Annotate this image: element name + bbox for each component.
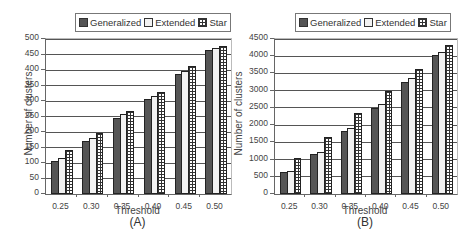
y-tick-label: 500: [238, 170, 268, 180]
y-tick-mark: [270, 141, 274, 142]
gridline: [275, 176, 457, 177]
x-tick-label: 0.25: [45, 201, 75, 211]
legend-item-star: Star: [198, 17, 226, 28]
gridline: [275, 56, 457, 57]
legend-item-generalized: Generalized: [79, 17, 141, 28]
y-tick-label: 200: [9, 125, 39, 135]
y-tick-label: 0: [238, 187, 268, 197]
gridline: [275, 90, 457, 91]
gridline: [46, 132, 231, 133]
chart-sublabel: (B): [274, 215, 456, 229]
legend-swatch-icon: [418, 18, 427, 27]
x-tick-mark: [199, 194, 200, 197]
legend-label: Generalized: [310, 17, 361, 28]
y-tick-label: 400: [9, 63, 39, 73]
chart-sublabel: (A): [45, 215, 230, 229]
legend-swatch-icon: [364, 18, 373, 27]
y-tick-label: 1000: [238, 153, 268, 163]
y-tick-label: 2000: [238, 118, 268, 128]
plot-area: [45, 38, 232, 195]
gridline: [46, 178, 231, 179]
y-tick-mark: [41, 193, 45, 194]
y-tick-mark: [41, 85, 45, 86]
y-tick-mark: [41, 69, 45, 70]
gridline: [275, 159, 457, 160]
bar-star-0.50: [445, 45, 453, 194]
y-tick-mark: [41, 131, 45, 132]
y-tick-label: 450: [9, 48, 39, 58]
y-tick-mark: [270, 124, 274, 125]
chart-a: GeneralizedExtendedStar Number of cluste…: [0, 0, 235, 246]
x-tick-mark: [395, 194, 396, 197]
gridline: [46, 163, 231, 164]
bar-star-0.30: [324, 137, 332, 194]
y-tick-mark: [41, 38, 45, 39]
x-tick-mark: [76, 194, 77, 197]
x-tick-label: 0.45: [396, 201, 426, 211]
y-tick-label: 50: [9, 172, 39, 182]
legend-swatch-icon: [79, 18, 88, 27]
bar-star-0.35: [126, 111, 134, 194]
x-tick-mark: [365, 194, 366, 197]
x-tick-mark: [107, 194, 108, 197]
y-tick-mark: [270, 38, 274, 39]
bar-star-0.40: [385, 91, 393, 194]
y-tick-label: 2500: [238, 101, 268, 111]
y-tick-label: 3000: [238, 84, 268, 94]
legend-swatch-icon: [299, 18, 308, 27]
y-tick-mark: [270, 55, 274, 56]
y-tick-label: 350: [9, 79, 39, 89]
y-tick-label: 500: [9, 32, 39, 42]
y-tick-mark: [41, 178, 45, 179]
gridline: [46, 70, 231, 71]
legend-item-star: Star: [418, 17, 446, 28]
bar-star-0.50: [219, 46, 227, 194]
y-tick-mark: [41, 54, 45, 55]
x-tick-label: 0.35: [107, 201, 137, 211]
bar-star-0.45: [188, 66, 196, 194]
bar-star-0.40: [157, 92, 165, 194]
legend-label: Star: [429, 17, 446, 28]
x-tick-mark: [426, 194, 427, 197]
y-axis-label: Number of clusters: [233, 64, 244, 164]
gridline: [275, 125, 457, 126]
gridline: [46, 54, 231, 55]
y-tick-label: 100: [9, 156, 39, 166]
legend-label: Star: [209, 17, 226, 28]
legend: GeneralizedExtendedStar: [295, 13, 451, 32]
bar-star-0.35: [354, 113, 362, 194]
y-tick-mark: [270, 72, 274, 73]
bar-star-0.45: [415, 69, 423, 194]
gridline: [46, 101, 231, 102]
x-tick-label: 0.25: [274, 201, 304, 211]
x-tick-label: 0.45: [169, 201, 199, 211]
legend-item-generalized: Generalized: [299, 17, 361, 28]
gridline: [46, 39, 231, 40]
y-tick-mark: [270, 90, 274, 91]
gridline: [46, 147, 231, 148]
y-tick-label: 4000: [238, 49, 268, 59]
x-tick-label: 0.30: [305, 201, 335, 211]
x-tick-label: 0.40: [138, 201, 168, 211]
x-tick-mark: [168, 194, 169, 197]
y-tick-mark: [41, 100, 45, 101]
x-tick-mark: [335, 194, 336, 197]
legend-item-extended: Extended: [144, 17, 195, 28]
legend-swatch-icon: [198, 18, 207, 27]
gridline: [275, 73, 457, 74]
y-tick-label: 3500: [238, 66, 268, 76]
x-tick-mark: [304, 194, 305, 197]
y-tick-label: 4500: [238, 32, 268, 42]
gridline: [46, 85, 231, 86]
plot-area: [274, 38, 458, 195]
legend-swatch-icon: [144, 18, 153, 27]
legend: GeneralizedExtendedStar: [75, 13, 231, 32]
x-tick-label: 0.35: [335, 201, 365, 211]
gridline: [275, 142, 457, 143]
x-tick-label: 0.50: [426, 201, 456, 211]
bar-star-0.25: [65, 150, 73, 194]
y-tick-label: 250: [9, 110, 39, 120]
x-tick-label: 0.40: [365, 201, 395, 211]
gridline: [275, 107, 457, 108]
y-tick-mark: [270, 193, 274, 194]
